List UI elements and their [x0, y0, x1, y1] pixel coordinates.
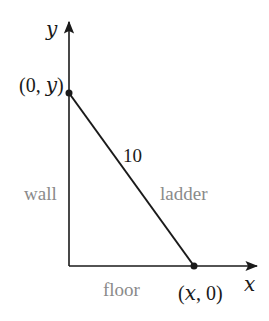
- y-axis-label: y: [45, 17, 58, 41]
- bottom-point: [191, 263, 198, 270]
- bottom-point-label: (x, 0): [178, 281, 223, 305]
- x-axis-label: x: [244, 272, 255, 296]
- floor-label: floor: [103, 279, 141, 300]
- top-point-label: (0, y): [19, 73, 64, 97]
- top-point: [66, 90, 73, 97]
- ladder-length-label: 10: [123, 145, 142, 166]
- ladder-label: ladder: [160, 183, 208, 204]
- ladder-line: [69, 93, 194, 266]
- wall-label: wall: [24, 183, 57, 204]
- ladder-diagram: y x (0, y) (x, 0) 10 wall ladder floor: [0, 0, 269, 321]
